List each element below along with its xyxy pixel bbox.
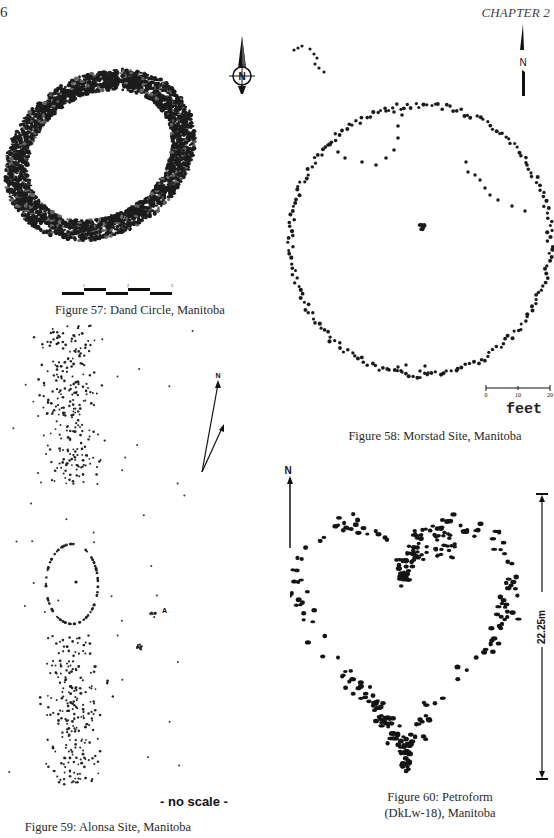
figure-57-caption: Figure 57: Dand Circle, Manitoba xyxy=(50,303,230,318)
svg-text:20: 20 xyxy=(547,392,553,398)
figure-60-caption-line1: Figure 60: Petroform xyxy=(370,790,510,805)
svg-text:2: 2 xyxy=(127,284,129,288)
petroform-plan xyxy=(290,480,530,780)
north-compass-icon: N xyxy=(226,34,258,100)
no-scale-label: - no scale - xyxy=(160,794,228,809)
figure-59-caption: Figure 59: Alonsa Site, Manitoba xyxy=(18,820,198,835)
svg-text:N: N xyxy=(284,465,291,476)
svg-text:10: 10 xyxy=(515,392,521,398)
figure-60-petroform xyxy=(290,480,530,780)
figure-58-morstad-site xyxy=(270,0,554,410)
svg-text:3: 3 xyxy=(171,284,173,288)
scale-bar-fig58: 0 10 20 xyxy=(484,384,554,402)
svg-text:N: N xyxy=(215,372,220,379)
dimension-label: 22.25m xyxy=(536,610,547,644)
svg-text:0: 0 xyxy=(485,392,488,398)
svg-text:A: A xyxy=(162,607,167,614)
scale-unit-feet: feet xyxy=(506,401,542,418)
svg-text:1: 1 xyxy=(83,284,85,288)
north-label: N xyxy=(238,71,245,82)
morstad-circle-plan xyxy=(270,0,554,410)
scale-bar-fig57: 1 2 3 xyxy=(60,284,180,304)
figure-60-caption-line2: (DkLw-18), Manitoba xyxy=(370,806,510,821)
north-arrow-fig59-icon: N xyxy=(196,370,236,484)
figure-58-caption: Figure 58: Morstad Site, Manitoba xyxy=(340,429,530,444)
page-number: 6 xyxy=(0,4,8,21)
